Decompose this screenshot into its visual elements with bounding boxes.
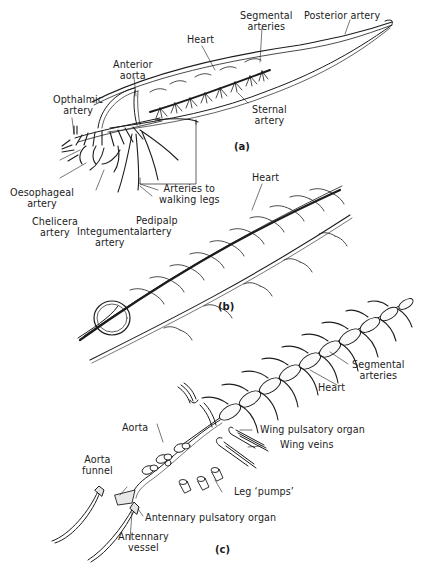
label-a-anterior-aorta: Anterior aorta (113, 59, 153, 81)
label-c-antennary-pulsatory-organ: Antennary pulsatory organ (145, 512, 276, 523)
label-c-leg-pumps: Leg ‘pumps’ (234, 486, 294, 497)
label-a-opthalmic-artery: Opthalmic artery (53, 94, 103, 116)
panel-b-tag: (b) (218, 301, 234, 312)
label-a-oesophageal-artery: Oesophageal artery (10, 187, 74, 209)
panel-a-drawing (62, 20, 393, 192)
label-b-heart: Heart (252, 172, 279, 183)
circulatory-system-diagram (0, 0, 437, 576)
label-c-aorta: Aorta (122, 422, 148, 433)
label-c-heart: Heart (318, 382, 345, 393)
label-a-heart: Heart (187, 34, 214, 45)
label-a-segmental-arteries: Segmental arteries (240, 10, 293, 32)
panel-b-drawing (78, 186, 352, 363)
label-c-antennary-vessel: Antennary vessel (118, 531, 169, 553)
label-a-arteries-to-walking-legs: Arteries to walking legs (159, 183, 220, 205)
label-a-integumental-artery: Integumental artery (77, 226, 143, 248)
label-c-wing-veins: Wing veins (280, 439, 333, 450)
label-c-segmental-arteries: Segmental arteries (352, 359, 405, 381)
panel-a-tag: (a) (234, 141, 250, 152)
label-a-sternal-artery: Sternal artery (252, 104, 287, 126)
label-c-aorta-funnel: Aorta funnel (82, 454, 113, 476)
label-a-chelicera-artery: Chelicera artery (32, 216, 78, 238)
label-c-wing-pulsatory-organ: Wing pulsatory organ (260, 424, 365, 435)
panel-c-tag: (c) (215, 544, 230, 555)
label-a-posterior-artery: Posterior artery (304, 10, 380, 21)
